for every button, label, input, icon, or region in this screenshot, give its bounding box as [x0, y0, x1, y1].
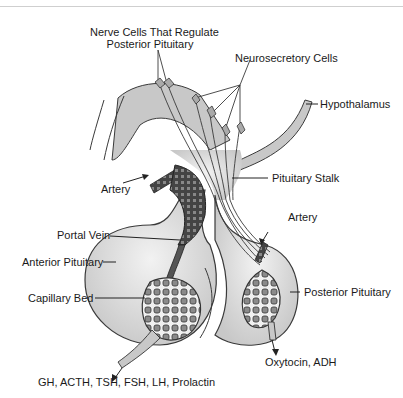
label-posterior-pituitary: Posterior Pituitary — [304, 286, 391, 298]
label-nerve-cells-line1: Nerve Cells That Regulate — [90, 26, 210, 38]
label-neurosecretory-cells: Neurosecretory Cells — [235, 52, 338, 64]
label-capillary-bed: Capillary Bed — [28, 292, 93, 304]
label-artery-left: Artery — [101, 183, 130, 195]
label-anterior-pituitary: Anterior Pituitary — [22, 256, 103, 268]
pituitary-diagram — [0, 0, 403, 398]
label-portal-vein: Portal Vein — [57, 229, 110, 241]
label-hypothalamus: Hypothalamus — [320, 98, 390, 110]
label-pituitary-stalk: Pituitary Stalk — [272, 172, 339, 184]
label-nerve-cells: Nerve Cells That Regulate Posterior Pitu… — [90, 26, 210, 50]
label-nerve-cells-line2: Posterior Pituitary — [90, 38, 210, 50]
label-posterior-hormones: Oxytocin, ADH — [265, 356, 337, 368]
label-anterior-hormones: GH, ACTH, TSH, FSH, LH, Prolactin — [38, 376, 215, 388]
label-artery-right: Artery — [288, 211, 317, 223]
